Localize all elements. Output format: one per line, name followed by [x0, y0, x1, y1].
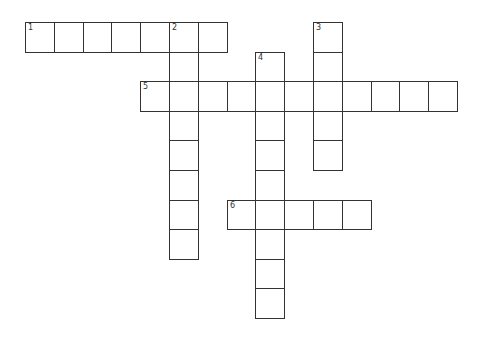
- crossword-cell[interactable]: [284, 81, 314, 112]
- crossword-cell[interactable]: [111, 22, 141, 53]
- clue-number: 1: [28, 24, 33, 32]
- crossword-cell[interactable]: [169, 200, 199, 230]
- clue-number: 3: [316, 24, 321, 32]
- crossword-cell[interactable]: [169, 170, 199, 201]
- crossword-cell[interactable]: 5: [140, 81, 170, 112]
- crossword-cell[interactable]: [140, 22, 170, 53]
- crossword-cell[interactable]: [313, 140, 343, 171]
- crossword-cell[interactable]: [169, 229, 199, 260]
- crossword-cell[interactable]: [255, 111, 285, 141]
- crossword-cell[interactable]: [342, 200, 372, 230]
- crossword-cell[interactable]: [255, 259, 285, 289]
- crossword-grid: 123456: [0, 0, 481, 338]
- clue-number: 4: [258, 54, 263, 62]
- crossword-cell[interactable]: [227, 81, 256, 112]
- crossword-cell[interactable]: [313, 200, 343, 230]
- crossword-cell[interactable]: 2: [169, 22, 199, 53]
- crossword-cell[interactable]: [255, 229, 285, 260]
- crossword-cell[interactable]: [313, 52, 343, 82]
- crossword-cell[interactable]: [399, 81, 429, 112]
- crossword-cell[interactable]: [169, 140, 199, 171]
- clue-number: 2: [172, 24, 177, 32]
- crossword-cell[interactable]: [255, 170, 285, 201]
- crossword-cell[interactable]: 4: [255, 52, 285, 82]
- crossword-cell[interactable]: [313, 111, 343, 141]
- crossword-cell[interactable]: 1: [25, 22, 55, 53]
- crossword-cell[interactable]: [54, 22, 84, 53]
- crossword-cell[interactable]: [428, 81, 458, 112]
- crossword-cell[interactable]: [255, 140, 285, 171]
- crossword-cell[interactable]: [313, 81, 343, 112]
- crossword-cell[interactable]: [169, 81, 199, 112]
- crossword-cell[interactable]: [83, 22, 112, 53]
- crossword-cell[interactable]: [169, 111, 199, 141]
- crossword-cell[interactable]: 6: [227, 200, 256, 230]
- crossword-cell[interactable]: [342, 81, 372, 112]
- crossword-cell[interactable]: [371, 81, 400, 112]
- clue-number: 6: [230, 202, 235, 210]
- crossword-cell[interactable]: [198, 22, 228, 53]
- clue-number: 5: [143, 83, 148, 91]
- crossword-cell[interactable]: 3: [313, 22, 343, 53]
- crossword-cell[interactable]: [198, 81, 228, 112]
- crossword-cell[interactable]: [255, 81, 285, 112]
- crossword-cell[interactable]: [169, 52, 199, 82]
- crossword-cell[interactable]: [284, 200, 314, 230]
- crossword-cell[interactable]: [255, 288, 285, 319]
- crossword-cell[interactable]: [255, 200, 285, 230]
